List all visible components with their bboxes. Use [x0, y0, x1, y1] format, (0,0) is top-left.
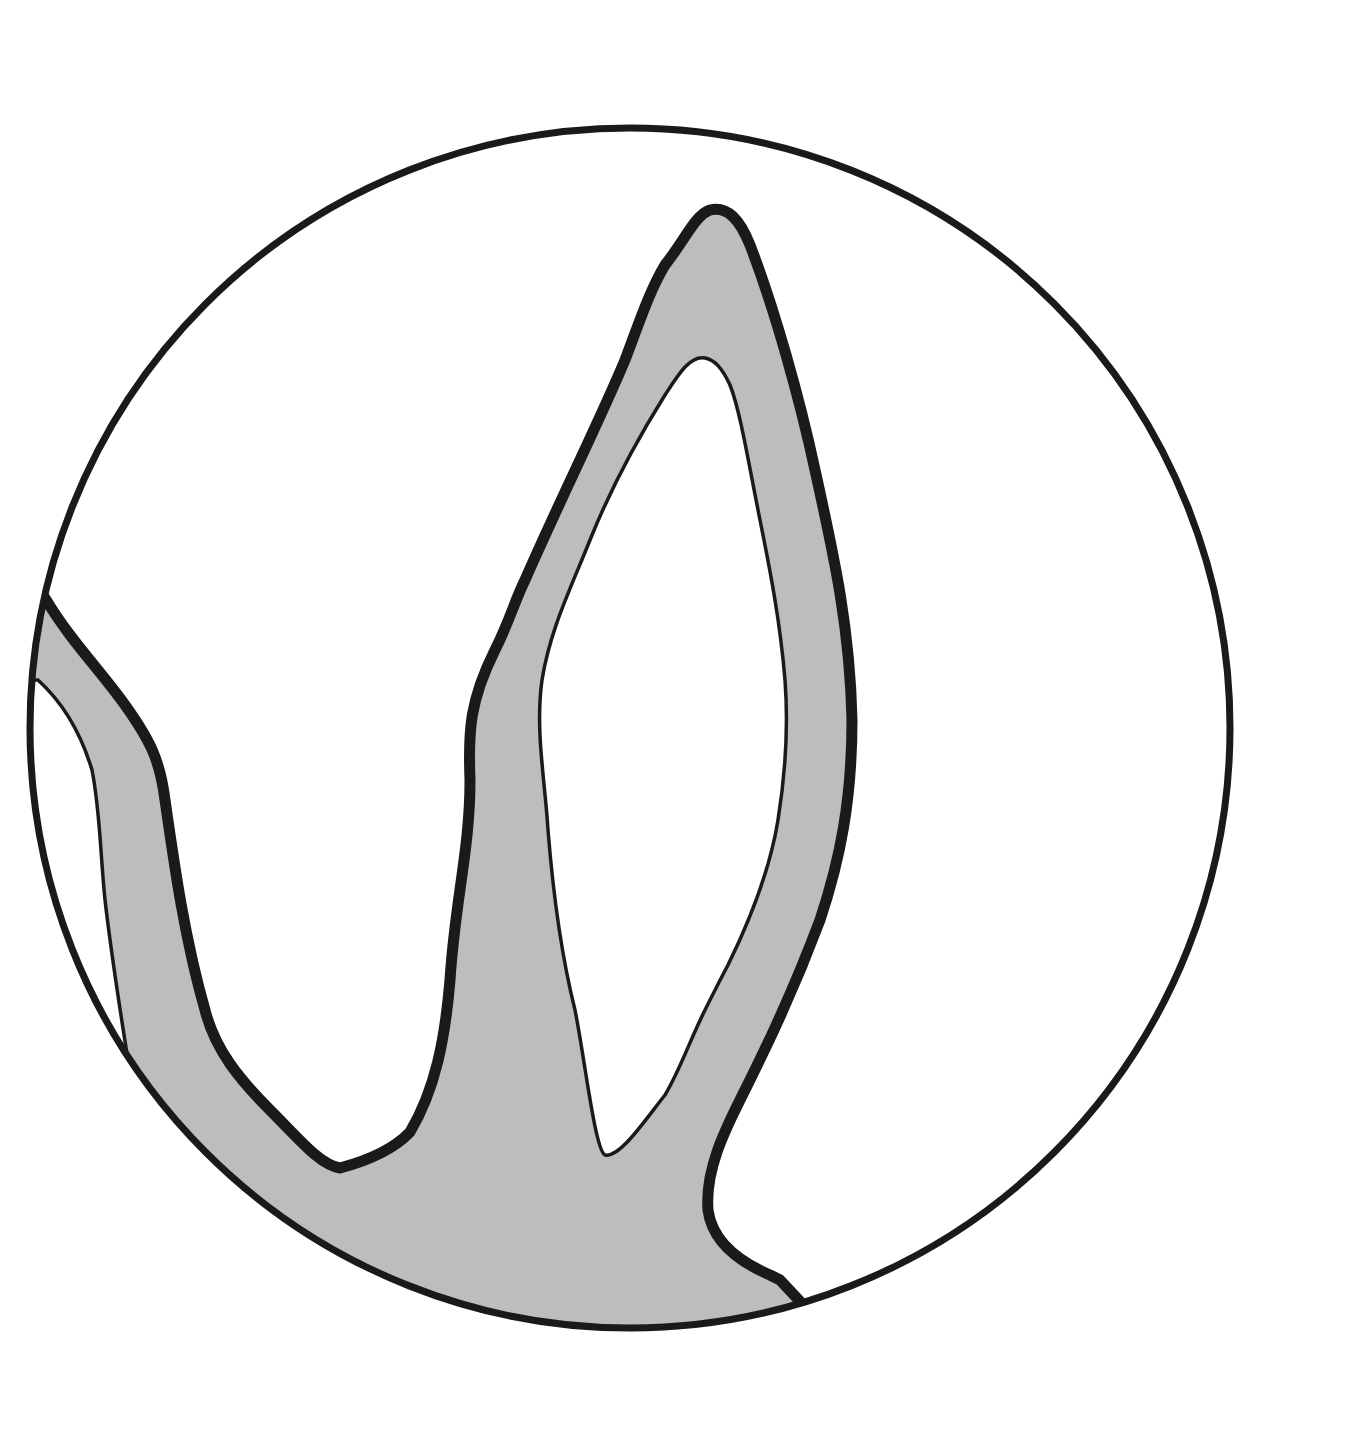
figure-canvas	[0, 0, 1346, 1455]
branching-structure-figure	[0, 0, 1346, 1455]
clipped-content	[0, 209, 852, 1400]
